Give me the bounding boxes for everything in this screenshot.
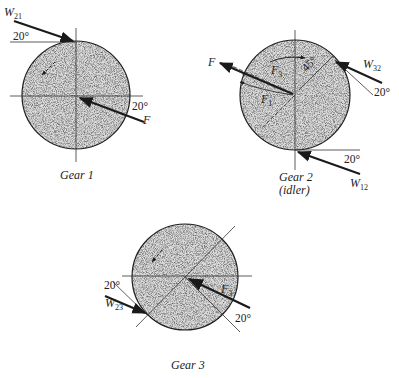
gear-1-angle-top: 20°	[13, 31, 29, 43]
w32-angle-label: 20°	[374, 87, 390, 99]
gear-2-caption: Gear 2	[279, 171, 313, 183]
gear-3-caption: Gear 3	[171, 359, 205, 371]
diagram-canvas	[0, 0, 399, 378]
w12-angle-label: 20°	[344, 154, 360, 166]
gear-1-angle-right: 20°	[132, 101, 148, 113]
gear-1-caption: Gear 1	[60, 169, 94, 181]
gear-3-angle-right: 20°	[235, 313, 251, 325]
gear-force-diagram: W21 20° 20° F Gear 1 F F3 F1 45° W32 20°…	[0, 0, 399, 378]
gear-3-f3-label: F3	[221, 283, 232, 298]
gear-1	[10, 21, 144, 162]
f1-label: F1	[261, 93, 272, 108]
gear-3-angle-left: 20°	[104, 280, 120, 292]
gear-3	[105, 224, 252, 332]
gear-2-f-label: F	[208, 56, 215, 68]
gear-1-f-label: F	[143, 114, 150, 126]
w32-label: W32	[363, 58, 381, 73]
w12-label: W12	[350, 177, 368, 192]
w23-label: W23	[105, 297, 123, 312]
w21-label: W21	[4, 6, 22, 21]
gear-2-caption-sub: (idler)	[279, 184, 310, 196]
f3-label: F3	[271, 64, 282, 79]
